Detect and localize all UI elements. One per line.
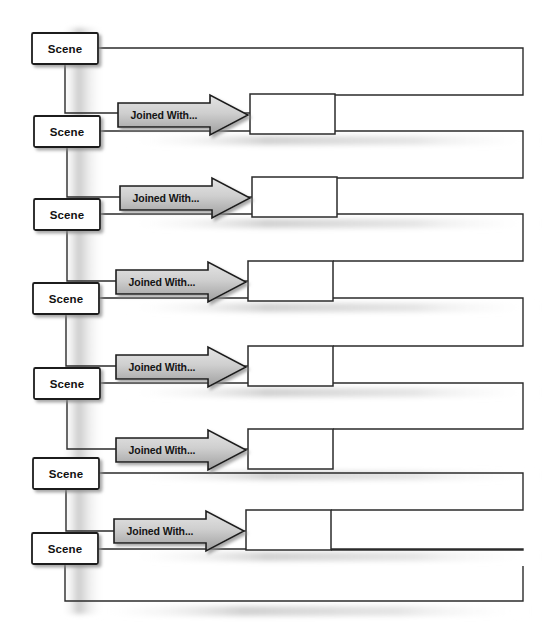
result-box[interactable] [252,177,337,217]
scene-box[interactable] [32,33,98,64]
join-arrow[interactable] [116,430,246,470]
scene-box[interactable] [33,458,99,489]
result-box[interactable] [248,429,333,469]
join-arrows [114,95,250,551]
join-arrow[interactable] [120,178,250,218]
connector-scene1-rail [98,48,523,95]
result-boxes [246,94,337,550]
scene-box[interactable] [34,368,100,399]
join-arrow[interactable] [116,347,246,387]
scene-box[interactable] [33,283,99,314]
join-arrow[interactable] [114,511,244,551]
scene-box[interactable] [32,533,98,564]
diagram-canvas: Scene Scene Scene Scene Scene Scene Scen… [0,0,550,637]
join-arrow[interactable] [116,262,246,302]
result-box[interactable] [248,261,333,301]
result-box[interactable] [250,94,335,134]
result-box[interactable] [248,346,333,386]
result-box[interactable] [246,510,331,550]
join-arrow[interactable] [118,95,248,135]
scene-box[interactable] [34,199,100,230]
connector-scene7-tail [65,564,523,601]
diagram-vector-layer [0,0,550,637]
scene-box[interactable] [34,116,100,147]
